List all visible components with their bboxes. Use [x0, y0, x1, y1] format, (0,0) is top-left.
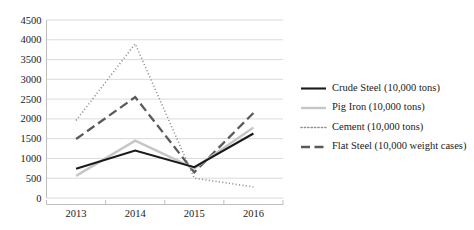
legend-item-label: Crude Steel (10,000 tons) — [332, 82, 440, 94]
y-axis-tick-label: 3500 — [21, 54, 42, 65]
x-axis-tick-label: 2014 — [125, 208, 147, 219]
legend-item-label: Pig Iron (10,000 tons) — [332, 101, 425, 113]
line-chart: 050010001500200025003000350040004500 201… — [0, 0, 474, 230]
y-axis-tick-label: 2000 — [21, 113, 42, 124]
chart-canvas: 050010001500200025003000350040004500 201… — [0, 0, 474, 230]
y-axis-tick-label: 1500 — [21, 133, 42, 144]
y-axis-tick-label: 4500 — [21, 15, 42, 26]
legend-item[interactable]: Cement (10,000 tons) — [301, 121, 424, 133]
chart-legend: Crude Steel (10,000 tons)Pig Iron (10,00… — [301, 82, 467, 153]
x-axis-tick-label: 2016 — [243, 208, 264, 219]
y-axis-tick-label: 3000 — [21, 74, 42, 85]
legend-item-label: Flat Steel (10,000 weight cases) — [332, 140, 467, 152]
legend-item[interactable]: Flat Steel (10,000 weight cases) — [301, 140, 467, 152]
y-axis-tick-labels: 050010001500200025003000350040004500 — [21, 15, 42, 204]
legend-item[interactable]: Crude Steel (10,000 tons) — [301, 82, 440, 94]
legend-item-label: Cement (10,000 tons) — [332, 121, 424, 133]
y-axis-tick-label: 500 — [26, 173, 42, 184]
axes — [47, 20, 284, 205]
legend-item[interactable]: Pig Iron (10,000 tons) — [301, 101, 425, 113]
x-axis-tick-label: 2013 — [66, 208, 87, 219]
series-line — [76, 44, 253, 187]
series-line — [76, 128, 253, 176]
data-series — [76, 44, 253, 187]
y-axis-tick-label: 1000 — [21, 153, 42, 164]
x-axis-tick-labels: 2013201420152016 — [66, 208, 264, 219]
y-axis-tick-label: 2500 — [21, 94, 42, 105]
y-axis-tick-label: 0 — [36, 193, 41, 204]
y-axis-tick-label: 4000 — [21, 34, 42, 45]
x-axis-tick-label: 2015 — [184, 208, 205, 219]
